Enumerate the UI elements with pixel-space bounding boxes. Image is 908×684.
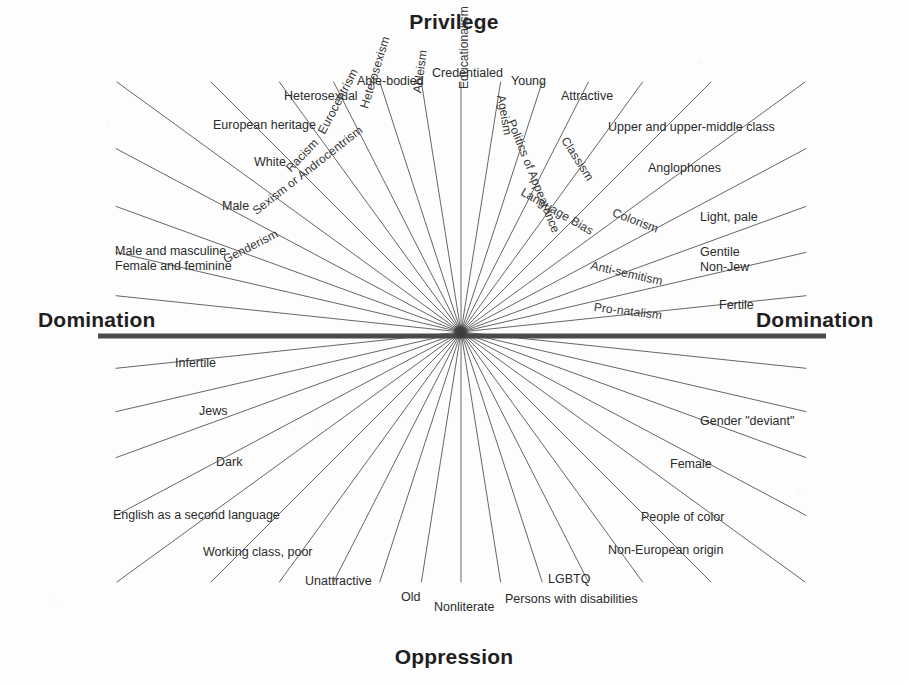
label-nonliterate: Nonliterate bbox=[434, 600, 494, 615]
label-female: Female bbox=[670, 457, 712, 472]
page-title-oppression: Oppression bbox=[0, 645, 908, 669]
label-old: Old bbox=[401, 590, 420, 605]
label-working-class-poor: Working class, poor bbox=[203, 545, 313, 560]
label-gentile-nonjew: Gentile Non-Jew bbox=[700, 245, 749, 275]
label-persons-with-disabilities: Persons with disabilities bbox=[505, 592, 638, 607]
label-english-second-language: English as a second language bbox=[113, 508, 280, 523]
label-young: Young bbox=[511, 74, 546, 89]
label-gender-deviant: Gender "deviant" bbox=[700, 414, 794, 429]
label-male: Male bbox=[222, 199, 249, 214]
label-male-female-gender: Male and masculine Female and feminine bbox=[115, 244, 232, 274]
axis-title-domination-right: Domination bbox=[756, 308, 874, 332]
label-european-heritage: European heritage bbox=[213, 118, 316, 133]
label-jews: Jews bbox=[199, 404, 227, 419]
axis-title-domination-left: Domination bbox=[38, 308, 156, 332]
center-hub bbox=[454, 325, 467, 338]
label-white: White bbox=[254, 155, 286, 170]
label-anglophones: Anglophones bbox=[648, 161, 721, 176]
label-lgbtq: LGBTQ bbox=[548, 572, 590, 587]
label-upper-class: Upper and upper-middle class bbox=[608, 120, 775, 135]
label-fertile: Fertile bbox=[719, 298, 754, 313]
diagram-canvas: Privilege Oppression Domination Dominati… bbox=[0, 0, 908, 684]
label-unattractive: Unattractive bbox=[305, 574, 372, 589]
ray-lines bbox=[0, 0, 908, 684]
label-attractive: Attractive bbox=[561, 89, 613, 104]
page-title-privilege: Privilege bbox=[0, 10, 908, 34]
label-people-of-color: People of color bbox=[641, 510, 724, 525]
label-light-pale: Light, pale bbox=[700, 210, 758, 225]
label-non-european-origin: Non-European origin bbox=[608, 543, 723, 558]
spoke-educationalism: Educationalism bbox=[457, 6, 471, 89]
label-infertile: Infertile bbox=[175, 356, 216, 371]
label-dark: Dark bbox=[216, 455, 242, 470]
